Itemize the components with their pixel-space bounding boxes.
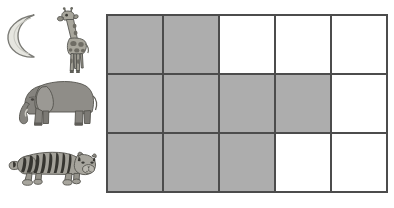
grid-cell-r3c1[interactable] [108,134,162,191]
grid-cell-r2c5[interactable] [330,75,386,132]
grid-cell-r3c3[interactable] [218,134,274,191]
table-row [108,16,386,73]
grid-cell-r3c4[interactable] [274,134,330,191]
grid-cell-r1c1[interactable] [108,16,162,73]
giraffe-icon [52,6,92,76]
grid-cell-r2c4[interactable] [274,75,330,132]
grid-cell-r2c3[interactable] [218,75,274,132]
elephant-icon [12,76,100,128]
crescent-moon-icon [4,12,46,60]
grid-cell-r1c4[interactable] [274,16,330,73]
grid-cell-r1c3[interactable] [218,16,274,73]
pictograph-grid [106,14,388,193]
grid-cell-r2c1[interactable] [108,75,162,132]
grid-cell-r1c5[interactable] [330,16,386,73]
grid-cell-r3c5[interactable] [330,134,386,191]
tiger-icon [6,138,102,188]
grid-cell-r1c2[interactable] [162,16,218,73]
table-row [108,73,386,132]
pictogram-legend-column [0,0,106,208]
grid-cell-r2c2[interactable] [162,75,218,132]
grid-cell-r3c2[interactable] [162,134,218,191]
worksheet-page [0,0,394,208]
table-row [108,132,386,191]
